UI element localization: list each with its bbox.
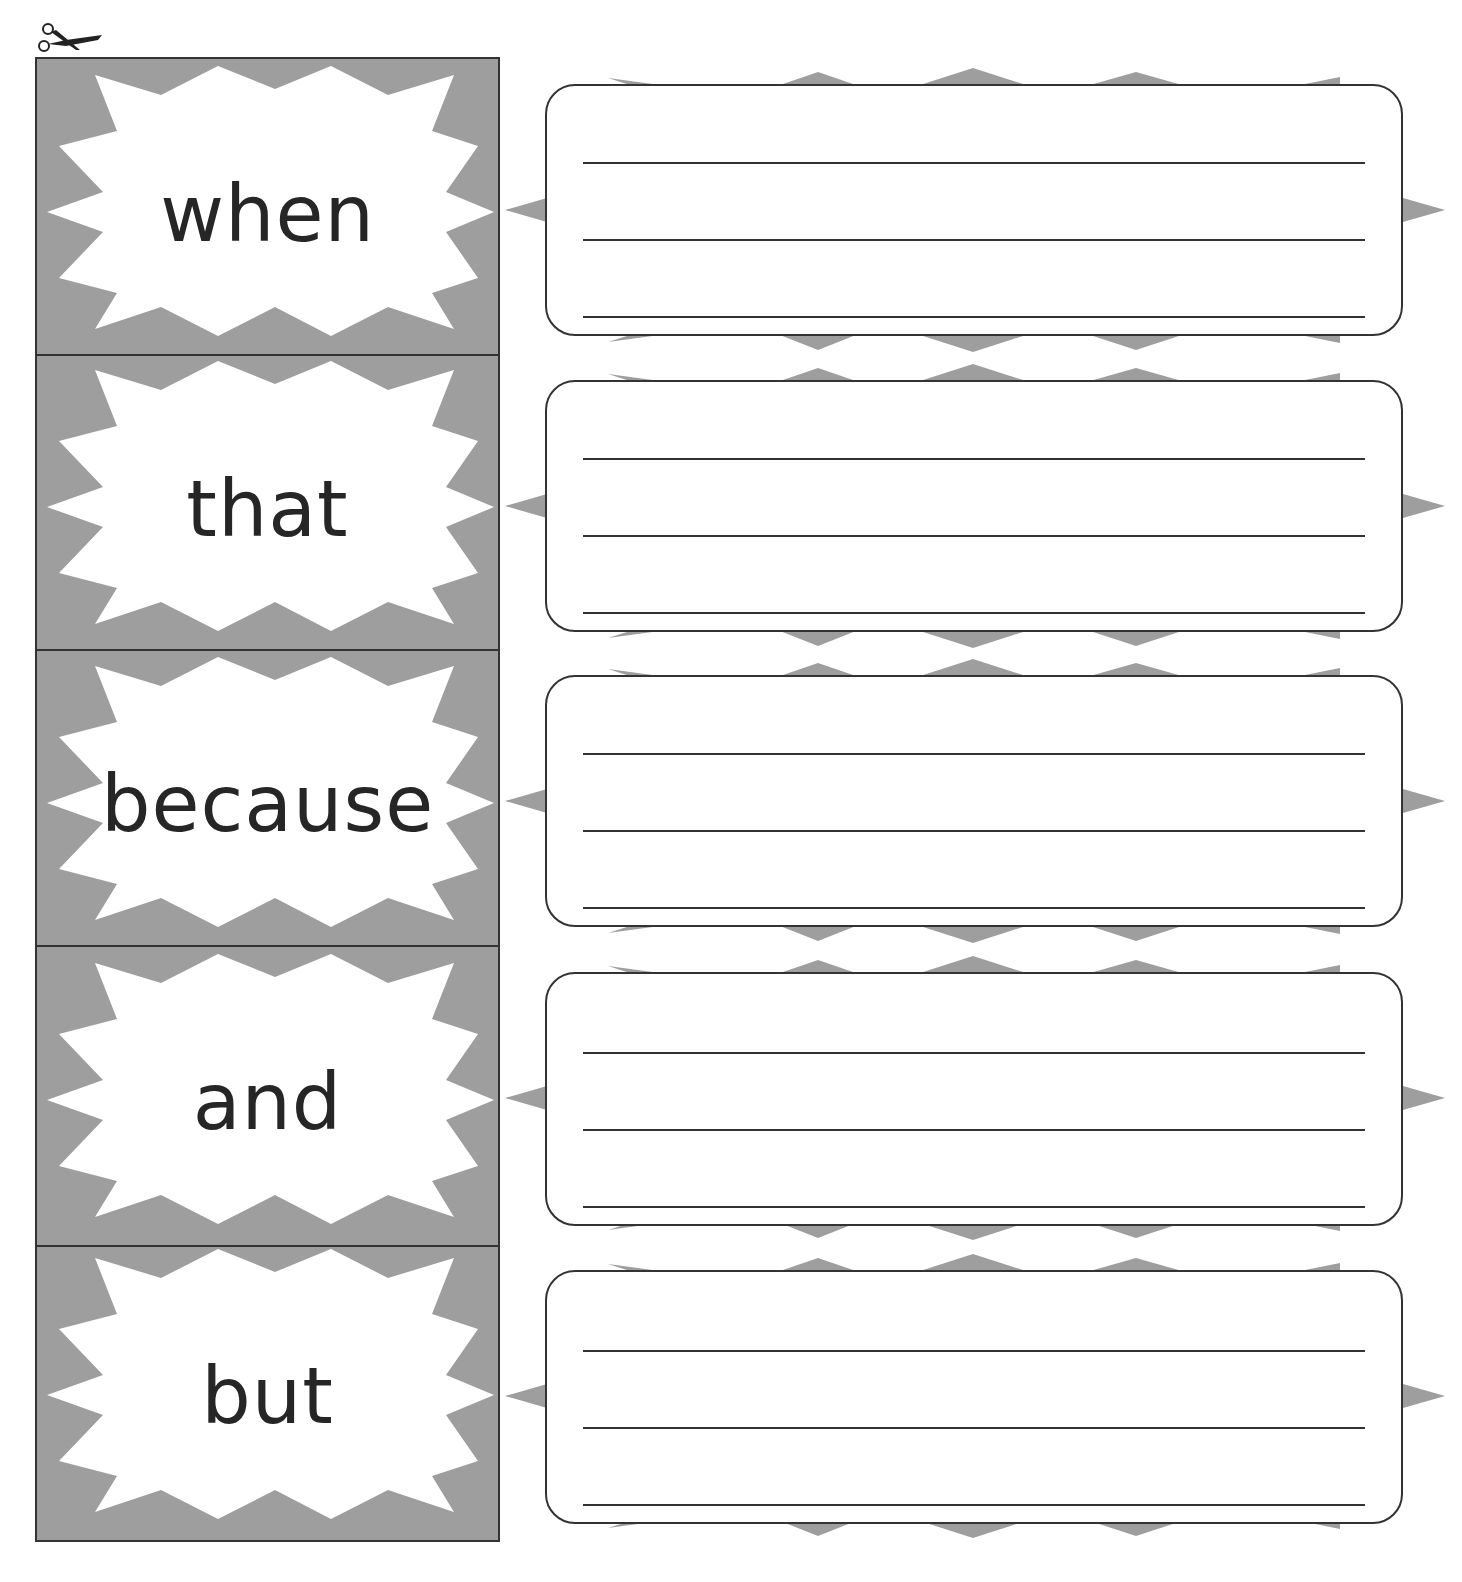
writing-box[interactable] (545, 380, 1403, 632)
card-word: because (37, 759, 498, 849)
writing-box[interactable] (545, 1270, 1403, 1524)
writing-line (583, 1427, 1365, 1429)
word-card-because[interactable]: because (37, 651, 498, 947)
writing-line (583, 1206, 1365, 1208)
word-card-column: when that because and but (35, 57, 500, 1542)
card-word: and (37, 1057, 498, 1147)
writing-box[interactable] (545, 675, 1403, 927)
word-card-when[interactable]: when (37, 59, 498, 356)
writing-line (583, 1052, 1365, 1054)
card-word: but (37, 1351, 498, 1441)
writing-line (583, 753, 1365, 755)
scissors-icon (36, 20, 104, 60)
writing-row-1 (500, 60, 1462, 360)
word-card-and[interactable]: and (37, 947, 498, 1247)
writing-line (583, 239, 1365, 241)
writing-row-2 (500, 356, 1462, 656)
writing-row-4 (500, 948, 1462, 1248)
writing-line (583, 316, 1365, 318)
writing-line (583, 535, 1365, 537)
card-word: that (37, 464, 498, 554)
writing-line (583, 1504, 1365, 1506)
writing-row-5 (500, 1246, 1462, 1546)
word-card-but[interactable]: but (37, 1247, 498, 1540)
card-word: when (37, 169, 498, 259)
writing-line (583, 1350, 1365, 1352)
writing-line (583, 830, 1365, 832)
writing-line (583, 458, 1365, 460)
writing-row-3 (500, 651, 1462, 951)
writing-line (583, 1129, 1365, 1131)
writing-box[interactable] (545, 972, 1403, 1226)
writing-box[interactable] (545, 84, 1403, 336)
writing-line (583, 612, 1365, 614)
writing-line (583, 162, 1365, 164)
word-card-that[interactable]: that (37, 356, 498, 651)
writing-line (583, 907, 1365, 909)
